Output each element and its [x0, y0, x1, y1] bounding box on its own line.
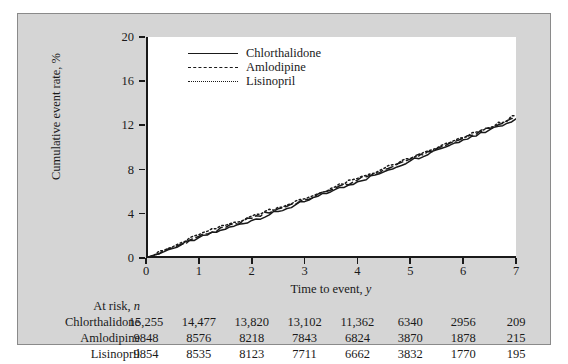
at-risk-cell: 13,102: [278, 315, 332, 330]
y-axis-tick-label: 0: [100, 252, 134, 265]
legend-item-label: Lisinopril: [240, 74, 295, 89]
at-risk-cell: 8218: [225, 331, 279, 346]
at-risk-cell: 3870: [383, 331, 437, 346]
at-risk-cell: 13,820: [225, 315, 279, 330]
at-risk-header-italic: n: [134, 299, 140, 313]
at-risk-cell: 7843: [278, 331, 332, 346]
at-risk-row: Chlorthalidone15,25514,47713,82013,10211…: [18, 315, 552, 331]
at-risk-cell: 9848: [119, 331, 173, 346]
at-risk-cell: 8535: [172, 347, 226, 362]
at-risk-cell: 195: [489, 347, 543, 362]
legend-item-label: Amlodipine: [240, 60, 306, 75]
y-axis-tick-label: 12: [100, 119, 134, 132]
x-axis-tick-label: 5: [398, 265, 422, 278]
x-axis-tick-label: 7: [504, 265, 528, 278]
x-axis-label: Time to event, y: [146, 282, 516, 297]
y-axis-tick-label: 4: [100, 208, 134, 221]
y-axis-label: Cumulative event rate, %: [49, 27, 64, 207]
y-axis-tick-label: 20: [100, 31, 134, 44]
legend-swatch-solid-icon: [186, 48, 240, 58]
y-axis-tick-label: 8: [100, 164, 134, 177]
x-axis-tick-label: 1: [187, 265, 211, 278]
at-risk-cell: 9854: [119, 347, 173, 362]
x-axis-tick-label: 2: [240, 265, 264, 278]
x-axis-label-unit: y: [366, 282, 372, 296]
at-risk-cell: 1878: [436, 331, 490, 346]
at-risk-header: At risk, n: [18, 299, 140, 314]
y-axis-tick-mark: [139, 36, 145, 38]
at-risk-cell: 1770: [436, 347, 490, 362]
at-risk-cell: 8576: [172, 331, 226, 346]
y-axis-tick-mark: [139, 169, 145, 171]
at-risk-header-text: At risk,: [93, 299, 134, 313]
chart-legend: ChlorthalidoneAmlodipineLisinopril: [186, 46, 396, 88]
at-risk-cell: 3832: [383, 347, 437, 362]
at-risk-cell: 11,362: [330, 315, 384, 330]
figure-panel: 048121620 01234567 Cumulative event rate…: [17, 13, 551, 345]
x-axis-tick-label: 0: [134, 265, 158, 278]
legend-item-label: Chlorthalidone: [240, 46, 321, 61]
y-axis-tick-mark: [139, 213, 145, 215]
y-axis-tick-label: 16: [100, 75, 134, 88]
at-risk-cell: 2956: [436, 315, 490, 330]
at-risk-row: Lisinopril985485358123771166623832177019…: [18, 347, 552, 363]
x-axis-label-text: Time to event,: [291, 282, 366, 296]
at-risk-cell: 215: [489, 331, 543, 346]
chart-plot-region: 048121620 01234567 Cumulative event rate…: [18, 14, 552, 346]
at-risk-cell: 6340: [383, 315, 437, 330]
legend-swatch-dotted-icon: [186, 76, 240, 86]
at-risk-cell: 15,255: [119, 315, 173, 330]
at-risk-cell: 8123: [225, 347, 279, 362]
at-risk-cell: 6824: [330, 331, 384, 346]
y-axis-tick-mark: [139, 257, 145, 259]
at-risk-cell: 14,477: [172, 315, 226, 330]
legend-swatch-dashed-icon: [186, 62, 240, 72]
x-axis-tick-label: 6: [451, 265, 475, 278]
legend-item: Chlorthalidone: [186, 46, 396, 60]
y-axis-tick-mark: [139, 124, 145, 126]
x-axis-tick-label: 4: [345, 265, 369, 278]
y-axis-tick-mark: [139, 80, 145, 82]
at-risk-cell: 6662: [330, 347, 384, 362]
legend-item: Lisinopril: [186, 74, 396, 88]
x-axis-tick-label: 3: [293, 265, 317, 278]
legend-item: Amlodipine: [186, 60, 396, 74]
at-risk-cell: 7711: [278, 347, 332, 362]
at-risk-row: Amlodipine984885768218784368243870187821…: [18, 331, 552, 347]
at-risk-cell: 209: [489, 315, 543, 330]
